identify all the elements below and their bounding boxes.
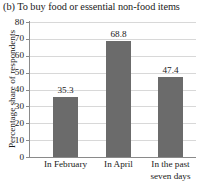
bar-in-february[interactable] xyxy=(53,97,78,157)
y-tick-label-70: 70 xyxy=(4,34,24,43)
y-tick-label-0: 0 xyxy=(4,153,24,162)
tick-mark-60 xyxy=(26,56,30,57)
y-tick-label-40: 40 xyxy=(4,85,24,94)
y-tick-label-60: 60 xyxy=(4,51,24,60)
y-tick-label-10: 10 xyxy=(4,136,24,145)
tick-mark-70 xyxy=(26,39,30,40)
gridline-80 xyxy=(30,22,196,23)
gridline-70 xyxy=(30,39,196,40)
bar-in-the-past-seven-days[interactable] xyxy=(158,77,183,157)
bar-in-april[interactable] xyxy=(106,41,131,157)
y-tick-label-20: 20 xyxy=(4,119,24,128)
tick-mark-20 xyxy=(26,123,30,124)
x-category-label-in-the-past-seven-days: In the past seven days xyxy=(139,159,199,182)
bar-value-in-february: 35.3 xyxy=(44,85,88,95)
bar-value-in-april: 68.8 xyxy=(97,29,141,39)
x-category-line: In the past xyxy=(139,159,199,171)
y-tick-label-30: 30 xyxy=(4,102,24,111)
tick-mark-30 xyxy=(26,106,30,107)
tick-mark-80 xyxy=(26,22,30,23)
x-category-line: seven days xyxy=(139,171,199,183)
y-tick-label-50: 50 xyxy=(4,68,24,77)
chart-title: (b) To buy food or essential non-food it… xyxy=(3,0,198,14)
x-axis-line xyxy=(29,157,196,158)
tick-mark-40 xyxy=(26,90,30,91)
tick-mark-10 xyxy=(26,140,30,141)
tick-mark-50 xyxy=(26,73,30,74)
bar-value-in-the-past-seven-days: 47.4 xyxy=(149,65,193,75)
tick-mark-0 xyxy=(26,157,30,158)
y-tick-label-80: 80 xyxy=(4,18,24,27)
